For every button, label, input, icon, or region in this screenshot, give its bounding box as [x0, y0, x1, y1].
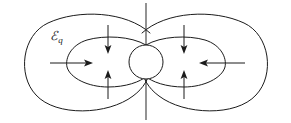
field-label-symbol: ℰ: [50, 29, 58, 43]
central-charge-circle: [129, 45, 163, 79]
field-label-subscript: q: [58, 35, 63, 45]
left-horizontal-arrow: [50, 60, 93, 67]
right-horizontal-arrow: [199, 60, 245, 67]
right-lower-up-arrow: [181, 70, 188, 99]
left-lower-up-arrow: [105, 70, 112, 99]
left-upper-down-arrow: [105, 25, 112, 54]
right-upper-down-arrow: [181, 25, 188, 54]
figure-root: ℰq: [0, 0, 291, 123]
field-label: ℰq: [50, 30, 63, 45]
dipole-field-diagram: [0, 0, 291, 123]
